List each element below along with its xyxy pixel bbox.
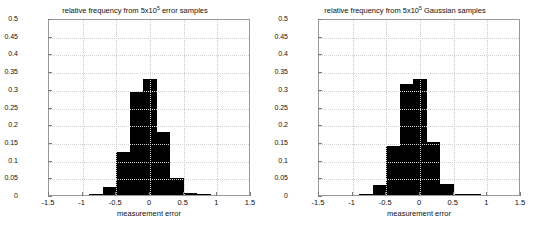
y-axis-tick-label: 0.15 [274, 139, 288, 147]
y-axis-tick-label: 0.25 [274, 104, 288, 112]
histogram-bar [89, 194, 102, 195]
y-axis-tick-mark [48, 37, 52, 38]
gridline-horizontal [49, 73, 249, 74]
gridline-vertical [420, 20, 421, 195]
histogram-bar [454, 194, 467, 195]
gridline-horizontal [49, 55, 249, 56]
gridline-horizontal [49, 144, 249, 145]
y-axis-tick-label: 0.45 [274, 33, 288, 41]
histogram-bar [373, 185, 386, 195]
y-axis-tick-mark [318, 178, 322, 179]
histogram-bar [116, 152, 129, 195]
chart-title-right-prefix: relative frequency from 5x10 [324, 6, 419, 15]
x-axis-tick-mark [149, 192, 150, 196]
histogram-bar [427, 142, 440, 195]
histogram-bar [400, 84, 413, 196]
histogram-bar [197, 194, 210, 195]
y-axis-tick-label: 0.3 [8, 86, 18, 94]
gridline-vertical [83, 20, 84, 195]
y-axis-tick-label: 0.2 [278, 121, 288, 129]
chart-title-right: relative frequency from 5x105 Gaussian s… [270, 6, 540, 16]
x-axis-tick-label: 0.5 [177, 198, 187, 207]
chart-title-left: relative frequency from 5x105 error samp… [0, 6, 270, 16]
gridline-horizontal [319, 109, 519, 110]
y-axis-tick-mark [318, 90, 322, 91]
y-axis-tick-mark [318, 72, 322, 73]
gridline-vertical [454, 20, 455, 195]
x-axis-tick-label: -1 [348, 198, 355, 207]
gridline-horizontal [49, 109, 249, 110]
y-axis-tick-mark [318, 19, 322, 20]
x-axis-tick-label: -0.5 [109, 198, 122, 207]
y-axis-tick-label: 0.05 [274, 174, 288, 182]
histogram-bar [359, 194, 372, 195]
x-axis-tick-mark [453, 192, 454, 196]
histogram-bar [440, 184, 453, 195]
y-axis-tick-mark [48, 54, 52, 55]
y-axis-tick-label: 0.1 [8, 157, 18, 165]
x-axis-tick-label: 0 [147, 198, 151, 207]
x-axis-tick-label: -1.5 [42, 198, 55, 207]
y-axis-tick-label: 0.4 [278, 50, 288, 58]
y-axis-tick-mark [48, 143, 52, 144]
histogram-bar [386, 146, 399, 195]
gridline-horizontal [319, 38, 519, 39]
x-axis-tick-label: -1.5 [312, 198, 325, 207]
chart-title-left-suffix: error samples [160, 6, 208, 15]
gridline-horizontal [319, 73, 519, 74]
gridline-vertical [217, 20, 218, 195]
gridline-horizontal [49, 126, 249, 127]
y-axis-tick-mark [318, 143, 322, 144]
gridline-vertical [386, 20, 387, 195]
x-axis-tick-mark [82, 192, 83, 196]
gridline-horizontal [319, 91, 519, 92]
histogram-bar [184, 193, 197, 195]
y-axis-tick-label: 0.25 [4, 104, 18, 112]
histogram-bars-left [49, 20, 249, 195]
x-axis-tick-label: -1 [78, 198, 85, 207]
y-axis-tick-label: 0.2 [8, 121, 18, 129]
y-axis-tick-mark [318, 125, 322, 126]
gridline-horizontal [319, 126, 519, 127]
y-axis-tick-mark [318, 37, 322, 38]
x-axis-tick-label: 1.5 [515, 198, 525, 207]
chart-title-right-suffix: Gaussian samples [422, 6, 486, 15]
x-axis-tick-mark [419, 192, 420, 196]
chart-panel-right: relative frequency from 5x105 Gaussian s… [270, 0, 540, 230]
gridline-horizontal [319, 179, 519, 180]
y-axis-tick-mark [48, 108, 52, 109]
gridline-horizontal [49, 91, 249, 92]
plot-area-left [48, 19, 250, 196]
x-axis-tick-mark [183, 192, 184, 196]
x-axis-tick-mark [352, 192, 353, 196]
gridline-horizontal [49, 179, 249, 180]
x-axis-tick-mark [318, 192, 319, 196]
gridline-horizontal [319, 144, 519, 145]
y-axis-tick-mark [48, 72, 52, 73]
histogram-bar [157, 132, 170, 195]
histogram-bars-right [319, 20, 519, 195]
y-axis-tick-label: 0.3 [278, 86, 288, 94]
y-axis-tick-label: 0.5 [278, 15, 288, 23]
y-axis-tick-mark [318, 54, 322, 55]
x-axis-tick-label: 1.5 [245, 198, 255, 207]
x-axis-tick-mark [520, 192, 521, 196]
y-axis-tick-label: 0.45 [4, 33, 18, 41]
x-axis-tick-label: -0.5 [379, 198, 392, 207]
x-axis-tick-mark [385, 192, 386, 196]
y-axis-tick-label: 0.1 [278, 157, 288, 165]
y-axis-tick-mark [48, 178, 52, 179]
histogram-bar [103, 187, 116, 195]
y-axis-tick-label: 0.05 [4, 174, 18, 182]
x-axis-tick-mark [486, 192, 487, 196]
y-axis-tick-label: 0.35 [274, 68, 288, 76]
y-axis-tick-mark [48, 19, 52, 20]
y-axis-tick-label: 0.4 [8, 50, 18, 58]
y-axis-tick-label: 0.35 [4, 68, 18, 76]
y-axis-tick-label: 0 [14, 192, 18, 200]
y-axis-tick-label: 0.15 [4, 139, 18, 147]
y-axis-tick-mark [318, 196, 322, 197]
x-axis-tick-mark [216, 192, 217, 196]
histogram-bar [467, 194, 480, 195]
y-axis-tick-mark [48, 90, 52, 91]
